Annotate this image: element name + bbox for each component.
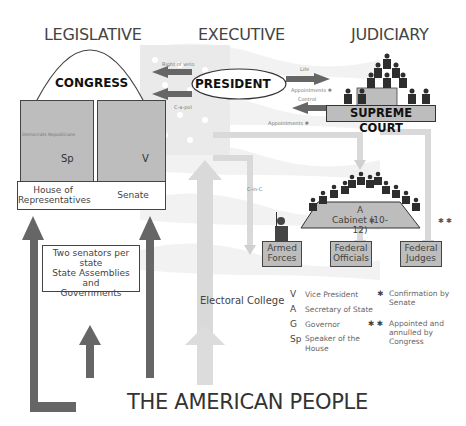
judges-marker: ✱ ✱ xyxy=(438,217,452,225)
state-box: Two senators per state State Assemblies … xyxy=(42,245,140,292)
legend-meaning: Secretary of State xyxy=(305,305,373,314)
federal-officials-box: Federal Officials xyxy=(330,241,372,267)
appointments-court-label: Appointments ✱ xyxy=(291,87,332,93)
legend-symbol-text: Appointed andannulled byCongress xyxy=(389,319,444,346)
supreme-court-box: SUPREME COURT xyxy=(326,105,436,122)
legend-symbol-line2: annulled by xyxy=(389,328,433,337)
speaker-code: Sp xyxy=(61,153,74,164)
cpt-label: C-a-pol xyxy=(174,104,192,110)
confirmation-marker: ✱ xyxy=(328,87,332,93)
state-box-line1: Two senators per state xyxy=(53,248,129,268)
connector-layer xyxy=(0,0,466,426)
federal-judges-line1: Federal xyxy=(404,243,437,253)
life-label: Life xyxy=(300,66,309,72)
legend-code: Sp xyxy=(290,334,305,354)
federal-officials-line2: Officials xyxy=(333,253,369,263)
senate-election-arrow xyxy=(139,216,161,378)
single-star-icon: ✱ xyxy=(372,289,389,319)
double-star-icon: ✱ ✱ xyxy=(362,319,389,346)
state-arrow xyxy=(79,325,101,378)
officials-marker: ✱ xyxy=(369,217,375,225)
legend-symbol-line3: Congress xyxy=(389,337,424,346)
state-box-line3: Governments xyxy=(61,288,122,298)
house-label-line2: Representatives xyxy=(18,195,91,205)
legend-meaning: Vice President xyxy=(305,290,358,299)
legend-symbols: ✱ Confirmation bySenate ✱ ✱ Appointed an… xyxy=(372,289,466,346)
armed-forces-line2: Forces xyxy=(267,253,296,263)
legend-code: A xyxy=(290,304,305,314)
house-parties: Democrats Republicans xyxy=(22,132,75,137)
electoral-college-arrow xyxy=(185,325,225,385)
legend-symbol-line1: Appointed and xyxy=(389,319,444,328)
legend-symbol-text: Confirmation bySenate xyxy=(389,289,449,319)
cabinet-label: A Cabinet (10-12) xyxy=(330,205,390,235)
federal-judges-box: Federal Judges xyxy=(400,241,442,267)
armed-forces-line1: Armed xyxy=(267,243,297,253)
house-label: House of Representatives xyxy=(18,185,88,205)
cabinet-code: A xyxy=(357,205,363,215)
electoral-college-label: Electoral College xyxy=(200,295,284,306)
cinc-connector xyxy=(213,158,250,245)
soldier-figure xyxy=(275,212,288,241)
legend-symbol-appointed: ✱ ✱ Appointed andannulled byCongress xyxy=(362,319,466,346)
legend-meaning: Speaker of theHouse xyxy=(305,334,360,354)
congress-dome xyxy=(37,50,143,100)
heading-judiciary: JUDICIARY xyxy=(351,25,428,44)
cpt-arrow xyxy=(152,88,192,100)
federal-officials-line1: Federal xyxy=(334,243,367,253)
appointments-court-text: Appointments xyxy=(291,87,326,93)
house-label-line1: House of xyxy=(33,185,73,195)
confirmation-marker: ✱ xyxy=(305,120,309,126)
congress-title: CONGRESS xyxy=(55,76,128,90)
legend-code: G xyxy=(290,319,305,329)
appointments-exec-text: Appointments xyxy=(268,120,303,126)
armed-forces-box: Armed Forces xyxy=(262,241,302,267)
veto-label: Right of veto xyxy=(162,61,194,67)
heading-executive: EXECUTIVE xyxy=(198,25,285,44)
legend-meaning: Governor xyxy=(305,320,340,329)
cinc-label: C-in-C xyxy=(247,186,262,192)
legend-meaning-line2: House xyxy=(305,344,329,353)
senate-chamber: V xyxy=(97,100,166,182)
legend-symbol-confirmation: ✱ Confirmation bySenate xyxy=(372,289,466,319)
senate-label: Senate xyxy=(108,190,158,200)
veto-arrow xyxy=(152,66,192,78)
legend-code: V xyxy=(290,289,305,299)
vp-code: V xyxy=(142,153,149,164)
control-label: Control xyxy=(298,96,316,102)
legend-symbol-line2: Senate xyxy=(389,298,415,307)
heading-american-people: THE AMERICAN PEOPLE xyxy=(127,390,368,414)
legend-meaning-line1: Speaker of the xyxy=(305,334,360,343)
legend-symbol-line1: Confirmation by xyxy=(389,289,449,298)
appointments-exec-label: Appointments ✱ xyxy=(268,120,309,126)
congress-base: House of Representatives Senate xyxy=(17,181,166,210)
house-chamber: Democrats Republicans Sp xyxy=(20,100,94,182)
president-label: PRESIDENT xyxy=(195,77,271,91)
federal-judges-line2: Judges xyxy=(406,253,436,263)
heading-legislative: LEGISLATIVE xyxy=(44,25,142,44)
life-arrow xyxy=(286,73,330,85)
state-box-line2: State Assemblies and xyxy=(52,268,129,288)
cabinet-text: Cabinet (10-12) xyxy=(332,215,388,235)
